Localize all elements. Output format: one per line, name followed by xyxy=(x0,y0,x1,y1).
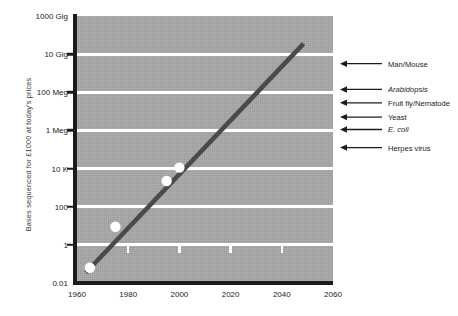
y-axis-tick-mark xyxy=(67,244,74,247)
x-axis-tick-mark xyxy=(281,245,284,253)
gridline xyxy=(77,205,333,208)
plot-area xyxy=(77,16,333,283)
x-axis-line xyxy=(73,281,333,285)
x-axis-tick-label: 2040 xyxy=(273,290,291,299)
x-axis-tick-label: 1960 xyxy=(68,290,86,299)
x-axis-tick-mark xyxy=(178,245,181,253)
annotation-arrow-head xyxy=(340,126,347,132)
y-axis-tick-label: 10 Gig xyxy=(44,50,68,59)
x-axis-tick-label: 2020 xyxy=(222,290,240,299)
y-axis-tick-label: 10 K xyxy=(52,164,68,173)
y-axis-tick-label: 100 xyxy=(55,202,68,211)
gridline xyxy=(77,129,333,132)
y-axis-tick-label: 1 Meg xyxy=(46,126,68,135)
y-axis-tick-label: 1000 Gig xyxy=(36,12,68,21)
y-axis-tick-mark xyxy=(67,205,74,208)
annotation-arrow-head xyxy=(340,86,347,92)
x-axis-tick-mark xyxy=(229,245,232,253)
y-axis-tick-labels: 1000 Gig10 Gig100 Meg1 Meg10 K10010.01 xyxy=(0,0,68,316)
annotation-label: E. coli xyxy=(388,125,409,134)
annotation-label: Man/Mouse xyxy=(388,59,428,68)
y-axis-tick-mark xyxy=(67,129,74,132)
gridline xyxy=(77,53,333,56)
annotation-label: Herpes virus xyxy=(388,143,431,152)
x-axis-tick-label: 2060 xyxy=(324,290,342,299)
sequencing-cost-chart: Bases sequenced for £1000 at today's pri… xyxy=(0,0,458,316)
annotation-arrow-head xyxy=(340,114,347,120)
gridline xyxy=(77,167,333,170)
x-axis-tick-mark xyxy=(127,245,130,253)
y-axis-tick-mark xyxy=(67,91,74,94)
y-axis-tick-mark xyxy=(67,167,74,170)
gridline xyxy=(77,91,333,94)
annotation-arrow-head xyxy=(340,144,347,150)
x-axis-tick-label: 2000 xyxy=(170,290,188,299)
annotation-label: Yeast xyxy=(388,113,407,122)
annotation-arrow-head xyxy=(340,100,347,106)
annotation-label: Fruit fly/Nematode xyxy=(388,98,450,107)
y-axis-tick-mark xyxy=(67,53,74,56)
annotation-arrow-head xyxy=(340,60,347,66)
annotation-label: Arabidopsis xyxy=(388,85,428,94)
x-axis-tick-label: 1980 xyxy=(119,290,137,299)
gridline xyxy=(77,243,333,246)
y-axis-tick-label: 100 Meg xyxy=(37,88,68,97)
y-axis-tick-label: 0.01 xyxy=(52,279,68,288)
